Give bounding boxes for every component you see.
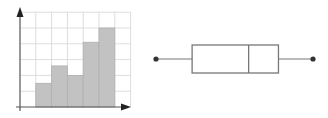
iqr-box <box>192 45 278 73</box>
max-dot-icon <box>310 56 315 61</box>
histogram-chart <box>16 7 131 111</box>
x-axis-arrow-icon <box>121 104 131 111</box>
histogram-bar <box>52 66 68 107</box>
histogram-bar <box>99 28 115 107</box>
bars <box>36 28 115 107</box>
histogram-bar <box>36 83 52 107</box>
histogram-bar <box>67 75 83 107</box>
histogram-bar <box>83 42 99 107</box>
min-dot-icon <box>153 56 158 61</box>
box-plot-chart <box>153 45 315 73</box>
figure <box>0 0 328 118</box>
